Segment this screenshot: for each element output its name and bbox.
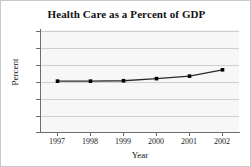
x-tick-mark-1997 xyxy=(57,132,58,136)
x-tick-mark-2001 xyxy=(189,132,190,136)
gridline-12 xyxy=(41,82,239,83)
gridline-24 xyxy=(41,31,239,32)
gridline-4 xyxy=(41,116,239,117)
x-axis-title: Year xyxy=(41,150,239,160)
y-tick-mark-16 xyxy=(36,65,41,66)
x-tick-mark-2000 xyxy=(156,132,157,136)
chart-title: Health Care as a Percent of GDP xyxy=(1,8,251,20)
y-tick-mark-4 xyxy=(36,116,41,117)
chart-figure: Health Care as a Percent of GDP 24 20 16… xyxy=(0,0,251,167)
x-axis-line xyxy=(40,132,240,133)
y-tick-mark-12 xyxy=(36,82,41,83)
y-axis-line xyxy=(40,29,41,133)
x-tick-label-2000: 2000 xyxy=(139,137,173,146)
x-tick-mark-2002 xyxy=(222,132,223,136)
y-tick-mark-0 xyxy=(36,132,41,133)
x-tick-mark-1999 xyxy=(123,132,124,136)
y-tick-mark-20 xyxy=(36,48,41,49)
x-tick-label-1997: 1997 xyxy=(40,137,74,146)
gridline-8 xyxy=(41,99,239,100)
x-tick-label-2001: 2001 xyxy=(172,137,206,146)
plot-area xyxy=(41,30,239,132)
gridline-20 xyxy=(41,48,239,49)
y-tick-mark-8 xyxy=(36,99,41,100)
gridline-16 xyxy=(41,65,239,66)
x-tick-label-1999: 1999 xyxy=(106,137,140,146)
y-tick-mark-24 xyxy=(36,31,41,32)
x-tick-label-2002: 2002 xyxy=(205,137,239,146)
x-tick-mark-1998 xyxy=(90,132,91,136)
x-tick-label-1998: 1998 xyxy=(73,137,107,146)
y-axis-title: Percent xyxy=(10,42,20,102)
